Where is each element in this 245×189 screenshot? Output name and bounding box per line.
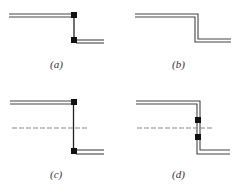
panel-d bbox=[136, 101, 230, 154]
panel-label-b: (b) bbox=[172, 59, 185, 70]
panel-label-d: (d) bbox=[172, 169, 185, 180]
diagram-canvas bbox=[0, 0, 245, 189]
panel-label-a: (a) bbox=[50, 59, 63, 70]
junction-marker bbox=[195, 117, 201, 123]
panel-c bbox=[10, 99, 104, 154]
junction-marker bbox=[195, 134, 201, 140]
junction-marker bbox=[71, 12, 77, 18]
panel-a bbox=[9, 12, 104, 43]
panel-label-c: (c) bbox=[50, 169, 62, 180]
junction-marker bbox=[71, 148, 77, 154]
figure: (a) (b) (c) (d) bbox=[0, 0, 245, 189]
panel-b bbox=[135, 14, 231, 42]
junction-marker bbox=[71, 99, 77, 105]
junction-marker bbox=[71, 37, 77, 43]
